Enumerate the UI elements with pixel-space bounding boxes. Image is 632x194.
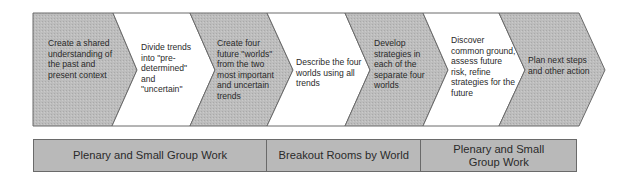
step-5-label: Develop strategies in each of the separa…: [374, 38, 432, 91]
step-2-label: Divide trends into "pre-determined" and …: [141, 42, 197, 95]
step-1-label: Create a shared understanding of the pas…: [48, 38, 114, 80]
step-4-label: Describe the four worlds using all trend…: [296, 57, 364, 89]
step-7-label: Plan next steps and other action: [528, 55, 592, 76]
phase-bar: Plenary and Small Group Work Breakout Ro…: [33, 139, 577, 172]
step-3-label: Create four future "worlds" from the two…: [217, 38, 281, 102]
phase-plenary-1: Plenary and Small Group Work: [34, 140, 266, 171]
phase-breakout: Breakout Rooms by World: [266, 140, 420, 171]
step-6-label: Discover common ground, assess future ri…: [451, 35, 519, 99]
phase-plenary-2: Plenary and Small Group Work: [420, 140, 576, 171]
